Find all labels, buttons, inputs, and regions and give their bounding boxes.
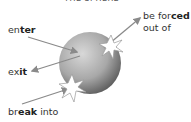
label-forced-line2: out of bbox=[143, 22, 171, 33]
label-exit: exit bbox=[8, 66, 27, 77]
label-forced-line1: be forced bbox=[143, 10, 190, 21]
label-enter: enter bbox=[8, 24, 36, 35]
break-into-arrow bbox=[22, 89, 68, 104]
label-break-into: break into bbox=[8, 106, 58, 117]
sphere-diagram: THE SPHERE ente bbox=[0, 0, 191, 122]
